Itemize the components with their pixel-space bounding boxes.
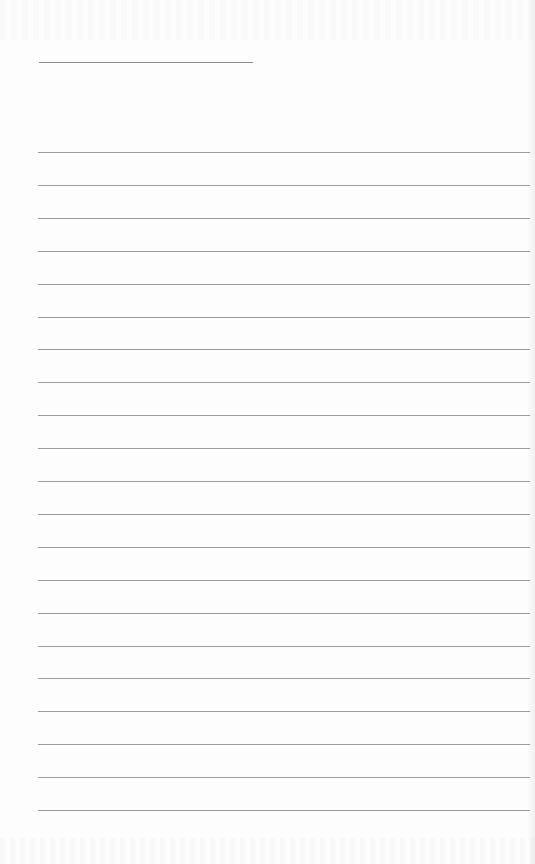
ruled-line	[38, 317, 530, 318]
ruled-line	[38, 218, 530, 219]
ruled-line	[38, 514, 530, 515]
ruled-line	[38, 415, 530, 416]
ruled-line	[38, 711, 530, 712]
lined-page	[0, 0, 535, 864]
ruled-line	[38, 613, 530, 614]
ruled-line	[38, 744, 530, 745]
ruled-line	[38, 448, 530, 449]
bleed-through-text-bottom	[0, 838, 535, 864]
ruled-line	[38, 580, 530, 581]
ruled-lines	[0, 0, 535, 864]
ruled-line	[38, 185, 530, 186]
ruled-line	[38, 284, 530, 285]
ruled-line	[38, 646, 530, 647]
ruled-line	[38, 547, 530, 548]
ruled-line	[38, 678, 530, 679]
ruled-line	[38, 152, 530, 153]
ruled-line	[38, 481, 530, 482]
page-edge-shadow	[527, 0, 535, 864]
ruled-line	[38, 349, 530, 350]
ruled-line	[38, 382, 530, 383]
ruled-line	[38, 777, 530, 778]
ruled-line	[38, 810, 530, 811]
ruled-line	[38, 251, 530, 252]
